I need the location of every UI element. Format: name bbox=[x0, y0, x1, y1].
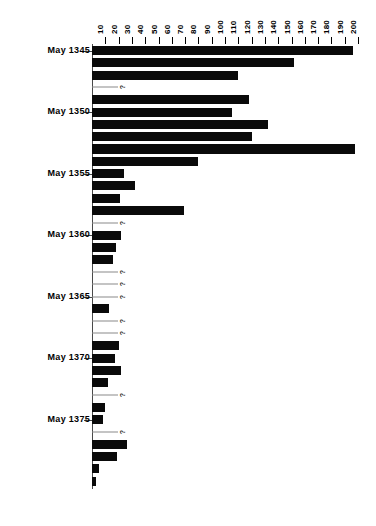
bar bbox=[92, 169, 124, 178]
bar-chart: 1020304050607080901001101201301401501601… bbox=[0, 0, 376, 526]
bar bbox=[92, 341, 119, 350]
x-axis-tick-label: 80 bbox=[190, 25, 198, 34]
unknown-value-marker: ? bbox=[119, 393, 126, 397]
bar-row bbox=[0, 144, 376, 153]
bar bbox=[92, 58, 294, 67]
bar bbox=[92, 46, 353, 55]
bar-row bbox=[0, 181, 376, 190]
bar bbox=[92, 157, 198, 166]
unknown-value-line bbox=[92, 321, 118, 322]
x-axis-tick-label: 50 bbox=[151, 25, 159, 34]
x-axis-tick-mark bbox=[119, 37, 120, 44]
year-axis-label: May 1355 bbox=[0, 169, 90, 178]
x-axis-tick-mark bbox=[238, 37, 239, 44]
unknown-value-marker: ? bbox=[119, 430, 126, 434]
bar bbox=[92, 243, 116, 252]
bar-row: ? bbox=[0, 218, 376, 227]
bar-row: ? bbox=[0, 317, 376, 326]
unknown-value-marker: ? bbox=[119, 294, 126, 298]
year-axis-label: May 1375 bbox=[0, 415, 90, 424]
bar bbox=[92, 354, 115, 363]
x-axis-tick-label: 130 bbox=[257, 20, 265, 34]
bar bbox=[92, 194, 120, 203]
x-axis-tick-mark bbox=[358, 37, 359, 44]
x-axis-tick-mark bbox=[292, 37, 293, 44]
x-axis-tick-mark bbox=[305, 37, 306, 44]
bar-row bbox=[0, 58, 376, 67]
bar bbox=[92, 181, 135, 190]
x-axis-tick-mark bbox=[198, 37, 199, 44]
unknown-value-marker: ? bbox=[119, 319, 126, 323]
bar bbox=[92, 477, 96, 486]
x-axis-tick-mark bbox=[331, 37, 332, 44]
x-axis-tick-label: 110 bbox=[230, 20, 238, 34]
x-axis-tick-mark bbox=[318, 37, 319, 44]
x-axis-tick-label: 120 bbox=[244, 20, 252, 34]
bar-row bbox=[0, 157, 376, 166]
x-axis-tick-label: 70 bbox=[177, 25, 185, 34]
bar bbox=[92, 440, 127, 449]
x-axis-top: 1020304050607080901001101201301401501601… bbox=[0, 0, 376, 44]
bar-row bbox=[0, 206, 376, 215]
unknown-value-line bbox=[92, 333, 118, 334]
bar bbox=[92, 304, 109, 313]
bar-row bbox=[0, 464, 376, 473]
bar bbox=[92, 206, 184, 215]
bar-row: ? bbox=[0, 329, 376, 338]
bar-row bbox=[0, 452, 376, 461]
x-axis-tick-mark bbox=[252, 37, 253, 44]
x-axis-tick-mark bbox=[345, 37, 346, 44]
x-axis-tick-mark bbox=[278, 37, 279, 44]
x-axis-tick-mark bbox=[212, 37, 213, 44]
x-axis-tick-label: 150 bbox=[284, 20, 292, 34]
bar bbox=[92, 132, 252, 141]
bar-row bbox=[0, 243, 376, 252]
unknown-value-marker: ? bbox=[119, 282, 126, 286]
unknown-value-line bbox=[92, 431, 118, 432]
x-axis-tick-mark bbox=[145, 37, 146, 44]
bar bbox=[92, 415, 103, 424]
year-axis-label: May 1350 bbox=[0, 107, 90, 116]
x-axis-tick-mark bbox=[225, 37, 226, 44]
x-axis-tick-label: 60 bbox=[164, 25, 172, 34]
bar bbox=[92, 366, 121, 375]
bar-row: ? bbox=[0, 280, 376, 289]
unknown-value-line bbox=[92, 271, 118, 272]
bar-row bbox=[0, 378, 376, 387]
bar bbox=[92, 403, 105, 412]
year-axis-label: May 1345 bbox=[0, 46, 90, 55]
bar-row bbox=[0, 255, 376, 264]
x-axis-tick-mark bbox=[185, 37, 186, 44]
x-axis-tick-mark bbox=[172, 37, 173, 44]
bar-row: ? bbox=[0, 83, 376, 92]
bar bbox=[92, 108, 232, 117]
x-axis-tick-label: 170 bbox=[310, 20, 318, 34]
x-axis-tick-label: 20 bbox=[111, 25, 119, 34]
x-axis-tick-label: 160 bbox=[297, 20, 305, 34]
bar bbox=[92, 255, 113, 264]
year-axis-label: May 1370 bbox=[0, 353, 90, 362]
x-axis-tick-mark bbox=[105, 37, 106, 44]
bar-row bbox=[0, 95, 376, 104]
bar bbox=[92, 144, 355, 153]
x-axis-tick-label: 30 bbox=[124, 25, 132, 34]
bar bbox=[92, 120, 268, 129]
bar-row bbox=[0, 194, 376, 203]
x-axis-tick-label: 100 bbox=[217, 20, 225, 34]
bar bbox=[92, 378, 108, 387]
bar-row bbox=[0, 71, 376, 80]
bar-row: ? bbox=[0, 390, 376, 399]
x-axis-tick-mark bbox=[132, 37, 133, 44]
bar-row bbox=[0, 440, 376, 449]
unknown-value-line bbox=[92, 296, 118, 297]
bar bbox=[92, 464, 99, 473]
unknown-value-marker: ? bbox=[119, 331, 126, 335]
x-axis-tick-label: 40 bbox=[137, 25, 145, 34]
year-axis-label: May 1365 bbox=[0, 292, 90, 301]
bar bbox=[92, 95, 249, 104]
x-axis-tick-label: 90 bbox=[204, 25, 212, 34]
x-axis-tick-label: 180 bbox=[323, 20, 331, 34]
bar-row bbox=[0, 403, 376, 412]
bar-row bbox=[0, 120, 376, 129]
bar-row bbox=[0, 304, 376, 313]
